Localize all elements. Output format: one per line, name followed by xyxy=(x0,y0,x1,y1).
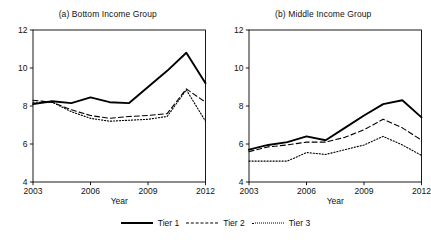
y-tick-label-6: 6 xyxy=(23,139,28,149)
y-tick-label-10: 10 xyxy=(234,63,244,73)
series-line-tier-1 xyxy=(33,53,206,104)
x-tick-label-2012: 2012 xyxy=(412,186,431,196)
y-tick-label-12: 12 xyxy=(234,25,244,35)
figure-canvas: (a) Bottom Income Group 4681012200320062… xyxy=(0,0,431,240)
legend-entries: Tier 1Tier 2Tier 3 xyxy=(121,218,310,228)
x-tick-label-2003: 2003 xyxy=(24,186,43,196)
x-tick-label-2009: 2009 xyxy=(354,186,373,196)
legend-label: Tier 2 xyxy=(223,218,244,228)
legend-item-tier-3[interactable]: Tier 3 xyxy=(252,218,310,228)
x-tick-label-2003: 2003 xyxy=(239,186,258,196)
plot-frame xyxy=(249,30,422,182)
legend-swatch-dotted xyxy=(252,219,284,227)
y-tick-label-8: 8 xyxy=(238,101,243,111)
x-tick-label-2006: 2006 xyxy=(297,186,316,196)
legend-label: Tier 1 xyxy=(158,218,179,228)
legend-item-tier-2[interactable]: Tier 2 xyxy=(186,218,244,228)
x-axis-title: Year xyxy=(326,196,343,206)
series-line-tier-3 xyxy=(33,90,206,121)
series-line-tier-2 xyxy=(249,119,422,151)
y-tick-label-8: 8 xyxy=(23,101,28,111)
panel-bottom-income-group: (a) Bottom Income Group 4681012200320062… xyxy=(0,0,216,206)
plot-area-bottom-income-group: 46810122003200620092012Year xyxy=(0,0,216,206)
x-axis-title: Year xyxy=(111,196,128,206)
y-tick-label-6: 6 xyxy=(238,139,243,149)
panel-container: (a) Bottom Income Group 4681012200320062… xyxy=(0,0,431,206)
x-tick-label-2012: 2012 xyxy=(196,186,215,196)
legend-label: Tier 3 xyxy=(289,218,310,228)
plot-area-middle-income-group: 46810122003200620092012Year xyxy=(216,0,431,206)
y-tick-label-12: 12 xyxy=(18,25,28,35)
panel-middle-income-group: (b) Middle Income Group 4681012200320062… xyxy=(216,0,431,206)
legend-item-tier-1[interactable]: Tier 1 xyxy=(121,218,179,228)
legend-swatch-solid xyxy=(121,219,153,227)
x-tick-label-2006: 2006 xyxy=(81,186,100,196)
series-line-tier-3 xyxy=(249,136,422,161)
y-tick-label-10: 10 xyxy=(18,63,28,73)
chart-legend: Tier 1Tier 2Tier 3 xyxy=(0,206,431,240)
legend-swatch-dashed xyxy=(186,219,218,227)
x-tick-label-2009: 2009 xyxy=(139,186,158,196)
